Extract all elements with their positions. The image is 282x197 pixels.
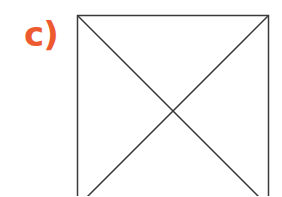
- diagonal-tr-bl: [78, 16, 269, 197]
- square-outline: [78, 16, 269, 197]
- diagonal-tl-br: [78, 16, 269, 197]
- square-diagram: [0, 0, 282, 196]
